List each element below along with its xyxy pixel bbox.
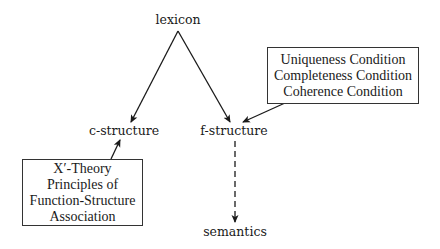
x-bar-theory-label: X′-Theory (53, 161, 111, 177)
association-label: Association (49, 209, 115, 225)
edge-conditions-to-f-structure (243, 103, 285, 122)
condition-coherence: Coherence Condition (283, 84, 402, 100)
node-f-structure: f-structure (200, 125, 267, 138)
node-semantics: semantics (203, 226, 267, 239)
node-lexicon: lexicon (155, 14, 200, 27)
edge-lexicon-to-c-structure (131, 31, 178, 122)
function-structure-label: Function-Structure (30, 193, 136, 209)
condition-uniqueness: Uniqueness Condition (281, 52, 406, 68)
x-bar-theory-box: X′-Theory Principles of Function-Structu… (22, 159, 143, 226)
condition-completeness: Completeness Condition (274, 68, 412, 84)
principles-label: Principles of (47, 177, 118, 193)
edge-xbar-to-c-structure (111, 140, 120, 159)
edge-lexicon-to-f-structure (178, 31, 230, 122)
node-c-structure: c-structure (89, 125, 159, 138)
conditions-box: Uniqueness Condition Completeness Condit… (267, 47, 419, 104)
lfg-architecture-diagram: lexicon c-structure f-structure semantic… (0, 0, 440, 249)
